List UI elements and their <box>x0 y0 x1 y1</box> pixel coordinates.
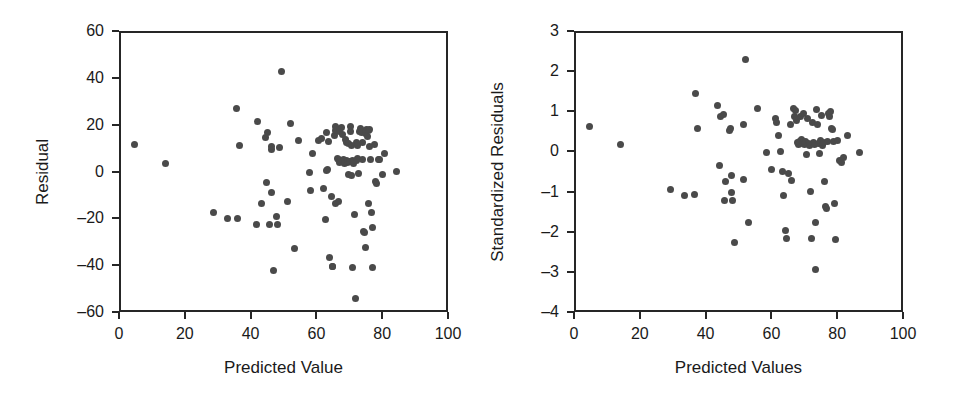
data-point <box>812 219 819 226</box>
data-point <box>773 119 780 126</box>
data-point <box>263 179 270 186</box>
data-point <box>803 151 810 158</box>
data-point <box>268 143 275 150</box>
data-point <box>740 176 747 183</box>
data-point <box>745 219 752 226</box>
y-axis-tick-label: –4 <box>489 304 559 320</box>
x-axis-tick-label: 60 <box>286 326 346 342</box>
data-point <box>777 148 784 155</box>
x-axis-tick <box>447 312 449 319</box>
x-axis-tick <box>902 312 904 319</box>
y-axis-tick <box>567 110 574 112</box>
data-point <box>731 239 738 246</box>
y-axis-tick <box>567 70 574 72</box>
x-axis-tick-label: 0 <box>89 326 149 342</box>
data-point <box>832 236 839 243</box>
data-point <box>224 215 231 222</box>
y-axis-tick-label: 3 <box>489 23 559 39</box>
data-point <box>369 264 376 271</box>
data-point <box>368 209 375 216</box>
x-axis-tick-label: 100 <box>418 326 478 342</box>
data-point <box>367 156 374 163</box>
y-axis-tick-label: –20 <box>34 210 104 226</box>
data-point <box>352 295 359 302</box>
x-axis-tick <box>705 312 707 319</box>
data-point <box>742 56 749 63</box>
data-point <box>840 154 847 161</box>
data-point <box>681 192 688 199</box>
data-point <box>162 160 169 167</box>
x-axis-tick <box>250 312 252 319</box>
y-axis-tick-label: –3 <box>489 264 559 280</box>
data-point <box>362 244 369 251</box>
data-point <box>306 169 313 176</box>
y-axis-tick-label: 20 <box>34 117 104 133</box>
x-axis-title-predicted-value: Predicted Value <box>79 358 488 378</box>
data-point <box>276 144 283 151</box>
data-point <box>721 197 728 204</box>
data-point <box>716 162 723 169</box>
data-point <box>617 141 624 148</box>
y-axis-tick <box>112 171 119 173</box>
x-axis-tick-label: 20 <box>155 326 215 342</box>
x-axis-title-predicted-values: Predicted Values <box>534 358 943 378</box>
data-point <box>274 221 281 228</box>
y-axis-tick-label: 40 <box>34 70 104 86</box>
data-point <box>355 170 362 177</box>
data-point <box>287 120 294 127</box>
plot-area-residual <box>119 31 448 312</box>
y-axis-tick <box>112 30 119 32</box>
data-point <box>816 150 823 157</box>
data-point <box>233 105 240 112</box>
data-point <box>266 221 273 228</box>
data-point <box>831 200 838 207</box>
data-point <box>740 121 747 128</box>
data-point <box>253 221 260 228</box>
data-point <box>329 263 336 270</box>
data-point <box>729 197 736 204</box>
x-axis-tick <box>381 312 383 319</box>
data-point <box>295 137 302 144</box>
data-point <box>844 132 851 139</box>
residual-plots-figure: 6040200–20–40–60020406080100 Residual Pr… <box>0 0 956 402</box>
data-point <box>131 141 138 148</box>
y-axis-tick-label: 60 <box>34 23 104 39</box>
data-point <box>335 198 342 205</box>
x-axis-tick <box>770 312 772 319</box>
data-point <box>720 111 727 118</box>
data-point <box>667 186 674 193</box>
data-point <box>349 264 356 271</box>
data-point <box>376 156 383 163</box>
data-point <box>323 129 330 136</box>
x-axis-tick <box>836 312 838 319</box>
x-axis-tick-label: 80 <box>807 326 867 342</box>
data-point <box>373 180 380 187</box>
data-point <box>234 215 241 222</box>
x-axis-tick <box>639 312 641 319</box>
data-point <box>728 172 735 179</box>
data-point <box>814 121 821 128</box>
x-axis-tick <box>184 312 186 319</box>
data-point <box>856 149 863 156</box>
data-point <box>270 267 277 274</box>
plot-area-standardized-residual <box>574 31 903 312</box>
y-axis-tick <box>567 271 574 273</box>
y-axis-tick <box>567 191 574 193</box>
data-point <box>808 235 815 242</box>
data-point <box>788 177 795 184</box>
x-axis-tick-label: 60 <box>741 326 801 342</box>
data-point <box>369 224 376 231</box>
x-axis-tick-label: 40 <box>676 326 736 342</box>
x-axis-tick-label: 40 <box>221 326 281 342</box>
chart-panel-residual: 6040200–20–40–60020406080100 Residual Pr… <box>0 0 478 402</box>
x-axis-tick <box>573 312 575 319</box>
data-point <box>834 137 841 144</box>
data-point <box>210 209 217 216</box>
data-point <box>754 105 761 112</box>
y-axis-tick-label: –40 <box>34 257 104 273</box>
data-point <box>361 229 368 236</box>
data-point <box>254 118 261 125</box>
scatter-points-standardized-residual <box>576 33 901 310</box>
x-axis-tick <box>315 312 317 319</box>
data-point <box>307 187 314 194</box>
